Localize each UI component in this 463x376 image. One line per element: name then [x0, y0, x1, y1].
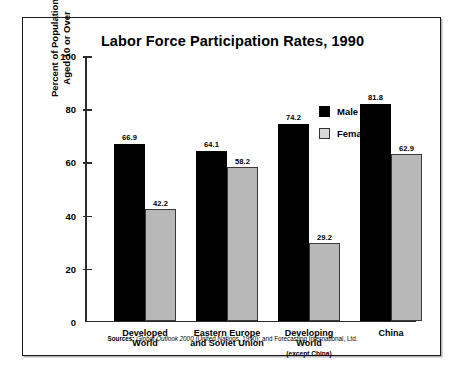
- y-tick-label: 40: [65, 210, 76, 221]
- legend-swatch-female-icon: [319, 128, 330, 139]
- bar-value-label: 64.1: [204, 140, 219, 149]
- bar-male[interactable]: 64.1: [196, 151, 227, 321]
- y-tick-label: 0: [71, 317, 76, 328]
- bar-group-china: 81.8 62.9 China: [360, 56, 422, 321]
- y-tick-label: 80: [65, 104, 76, 115]
- bar-female[interactable]: 62.9: [391, 154, 422, 320]
- legend-label-male: Male: [337, 106, 358, 117]
- bar-value-label: 81.8: [368, 93, 383, 102]
- chart-legend: Male Female: [319, 106, 370, 150]
- y-tick-label: 60: [65, 157, 76, 168]
- bar-female[interactable]: 42.2: [145, 209, 176, 321]
- legend-item-female[interactable]: Female: [319, 128, 370, 139]
- bar-group-developing-world: 74.2 29.2 Developing World (except China…: [278, 56, 340, 321]
- bar-male[interactable]: 74.2: [278, 124, 309, 320]
- bar-female[interactable]: 58.2: [227, 167, 258, 321]
- source-rest: (United Nations, 1990); and Forecasting …: [194, 335, 358, 342]
- bar-value-label: 66.9: [122, 133, 137, 142]
- legend-item-male[interactable]: Male: [319, 106, 370, 117]
- y-tick-label: 100: [60, 51, 76, 62]
- bar-value-label: 42.2: [153, 199, 168, 208]
- bar-value-label: 29.2: [317, 233, 332, 242]
- x-axis-line: [85, 321, 416, 323]
- bar-group-eastern-europe-soviet-union: 64.1 58.2 Eastern Europe and Soviet Unio…: [196, 56, 258, 321]
- bar-group-developed-world: 66.9 42.2 Developed World: [114, 56, 176, 321]
- source-italic-title: Global Outlook 2000: [136, 335, 193, 342]
- category-line-3: (except China): [253, 349, 365, 358]
- y-tick-label: 20: [65, 263, 76, 274]
- source-note: Sources: Global Outlook 2000 (United Nat…: [23, 335, 442, 342]
- bar-female[interactable]: 29.2: [309, 243, 340, 320]
- bar-value-label: 62.9: [399, 144, 414, 153]
- chart-figure-frame: Labor Force Participation Rates, 1990 Pe…: [22, 17, 441, 356]
- bar-value-label: 58.2: [235, 157, 250, 166]
- plot-area: 100 80 60 40 20 0 66.9 42.: [85, 56, 416, 322]
- legend-swatch-male-icon: [319, 106, 330, 117]
- bar-value-label: 74.2: [286, 113, 301, 122]
- legend-label-female: Female: [337, 128, 370, 139]
- source-lead: Sources:: [108, 335, 135, 342]
- bars-layer: 66.9 42.2 Developed World 64.1 58.2: [87, 56, 416, 321]
- bar-male[interactable]: 66.9: [114, 144, 145, 321]
- chart-title: Labor Force Participation Rates, 1990: [23, 33, 442, 49]
